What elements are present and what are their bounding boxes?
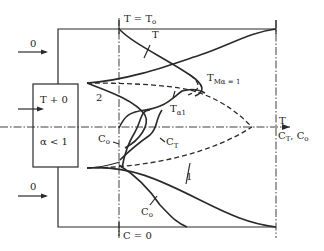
label-Co-lower: Co [141, 206, 153, 219]
box-label-top: T + 0 [40, 94, 68, 105]
curve-dashed-1 [87, 127, 252, 168]
inlet-arrow-bottom-icon [18, 194, 48, 199]
label-axis-right-T: T [279, 115, 286, 126]
lower-wall [58, 167, 276, 227]
leader-CT [160, 138, 165, 142]
inlet-label-bottom: 0 [30, 181, 36, 192]
leader-T [144, 45, 150, 58]
reactor-profile-diagram: T = To T TMα = 1 Tα1 2 T + 0 α < 1 0 0 C… [0, 0, 324, 251]
curve-upper-outer [87, 29, 276, 83]
label-1: 1 [186, 171, 192, 182]
label-curve-T: T [152, 29, 159, 40]
label-Co-upper: Co [98, 133, 110, 146]
label-curve-Ta1: Tα1 [170, 103, 186, 117]
curve-lower-outer [87, 168, 276, 227]
inlet-label-top: 0 [30, 38, 36, 49]
box-label-bottom: α < 1 [40, 136, 68, 147]
inlet-arrow-top-icon [18, 50, 48, 55]
curve-Ta1 [119, 90, 205, 128]
label-bottom-axis: C = 0 [123, 230, 152, 241]
label-CT: CT [166, 136, 179, 150]
leader-Co [113, 142, 119, 144]
inlet-arrow-middle-icon [18, 107, 44, 112]
label-top-axis: T = To [124, 13, 156, 26]
label-axis-right-C: CT, Co [278, 130, 309, 143]
curve-Co-lower [119, 165, 187, 227]
curve-dashed-Ma [188, 75, 198, 95]
label-2: 2 [96, 92, 102, 103]
label-curve-TM: TMα = 1 [207, 72, 240, 86]
